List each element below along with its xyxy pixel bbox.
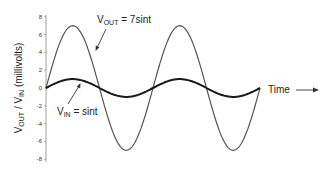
vout-arrowhead-icon xyxy=(96,46,100,52)
x-axis-title: Time xyxy=(268,84,290,95)
y-tick-label: 8 xyxy=(39,14,43,20)
y-axis-ticks: 86420-2-4-6-8 xyxy=(37,14,46,162)
vin-label: VIN = sint xyxy=(57,106,98,118)
y-tick-label: 4 xyxy=(39,49,43,55)
vout-arrow-line xyxy=(97,29,106,48)
y-tick-label: -4 xyxy=(37,121,43,127)
vin-arrowhead-icon xyxy=(77,83,81,89)
y-tick-label: -8 xyxy=(37,156,43,162)
y-axis-title: VOUT / VIN (millivolts) xyxy=(13,43,25,134)
vin-arrow-line xyxy=(68,86,79,104)
y-tick-label: 2 xyxy=(39,67,43,73)
vout-label: VOUT = 7sint xyxy=(97,14,151,26)
y-tick-label: -6 xyxy=(37,138,43,144)
y-tick-label: 6 xyxy=(39,32,43,38)
y-tick-label: 0 xyxy=(39,85,43,91)
y-tick-label: -2 xyxy=(37,103,43,109)
time-arrow-icon xyxy=(313,88,319,93)
chart: 86420-2-4-6-8 VOUT / VIN (millivolts) VO… xyxy=(0,0,334,171)
